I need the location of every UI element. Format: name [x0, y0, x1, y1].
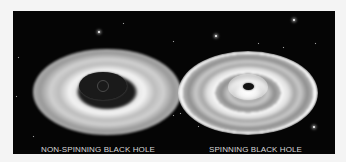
star-icon — [293, 19, 295, 21]
star-icon — [313, 126, 315, 128]
star-icon — [198, 126, 199, 127]
star-icon — [18, 57, 19, 58]
star-icon — [215, 35, 217, 37]
star-icon — [98, 31, 100, 33]
caption-non-spinning: NON-SPINNING BLACK HOLE — [41, 145, 155, 154]
star-icon — [180, 113, 181, 114]
star-icon — [123, 23, 124, 24]
spinning-black-hole-shadow — [243, 83, 254, 90]
star-icon — [33, 136, 34, 137]
caption-spinning: SPINNING BLACK HOLE — [209, 145, 302, 154]
event-horizon-ring — [97, 80, 109, 92]
star-icon — [315, 43, 316, 44]
star-icon — [258, 43, 259, 44]
star-icon — [173, 115, 174, 116]
star-icon — [283, 47, 284, 48]
illustration-panel: NON-SPINNING BLACK HOLE SPINNING BLACK H… — [13, 11, 335, 154]
star-icon — [16, 96, 17, 97]
star-icon — [173, 41, 174, 42]
